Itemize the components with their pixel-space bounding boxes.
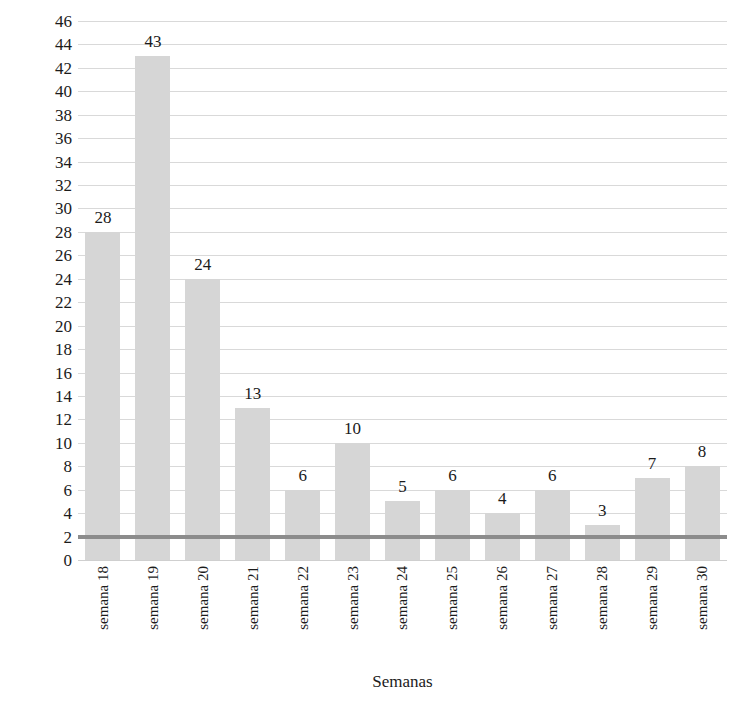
x-axis-tick-label: semana 18: [95, 566, 110, 630]
y-axis-tick-label: 14: [55, 387, 72, 404]
bar-slot: 6: [527, 21, 577, 560]
x-axis-tick-label: semana 23: [345, 566, 360, 630]
bar[interactable]: 28: [85, 232, 120, 560]
y-axis-tick-label: 6: [64, 481, 73, 498]
bar[interactable]: 6: [285, 490, 320, 560]
x-tick-slot: semana 24: [378, 566, 428, 662]
bar-slot: 6: [278, 21, 328, 560]
x-axis-tick-labels: semana 18semana 19semana 20semana 21sema…: [78, 566, 727, 662]
y-axis-tick-label: 4: [64, 505, 73, 522]
y-axis-tick-label: 16: [55, 364, 72, 381]
x-axis-tick-label: semana 27: [545, 566, 560, 630]
y-axis-tick-label: 26: [55, 247, 72, 264]
bar[interactable]: 5: [385, 501, 420, 560]
y-axis-tick-label: 40: [55, 83, 72, 100]
bar-slot: 5: [378, 21, 428, 560]
reference-line: [78, 535, 727, 539]
y-axis-title: média de dias: [0, 0, 34, 703]
bar-slot: 13: [228, 21, 278, 560]
bar-slot: 24: [178, 21, 228, 560]
bar[interactable]: 6: [435, 490, 470, 560]
x-axis-tick-label: semana 25: [445, 566, 460, 630]
bar[interactable]: 7: [635, 478, 670, 560]
x-tick-slot: semana 22: [278, 566, 328, 662]
bar-value-label: 6: [448, 467, 457, 484]
bar-slot: 10: [328, 21, 378, 560]
bar[interactable]: 24: [185, 279, 220, 560]
bar-value-label: 5: [398, 478, 407, 495]
bar-value-label: 3: [598, 502, 607, 519]
y-axis-tick-label: 46: [55, 13, 72, 30]
bar-value-label: 43: [144, 33, 161, 50]
bar[interactable]: 3: [585, 525, 620, 560]
x-tick-slot: semana 26: [477, 566, 527, 662]
bar[interactable]: 6: [535, 490, 570, 560]
x-axis-tick-label: semana 20: [195, 566, 210, 630]
bar-value-label: 28: [94, 209, 111, 226]
y-axis-tick-label: 8: [64, 458, 73, 475]
bar-chart: média de dias 46444240383634323028262422…: [0, 0, 755, 703]
y-axis-tick-label: 30: [55, 200, 72, 217]
bar-slot: 7: [627, 21, 677, 560]
y-axis-tick-label: 10: [55, 434, 72, 451]
bar-slot: 6: [427, 21, 477, 560]
bar-slot: 3: [577, 21, 627, 560]
x-tick-slot: semana 19: [128, 566, 178, 662]
x-axis-tick-label: semana 21: [245, 566, 260, 630]
x-axis-tick-label: semana 26: [495, 566, 510, 630]
y-axis-tick-label: 32: [55, 177, 72, 194]
y-axis-tick-labels: 4644424038363432302826242220181614121086…: [30, 21, 72, 560]
x-axis-tick-label: semana 30: [695, 566, 710, 630]
x-tick-slot: semana 20: [178, 566, 228, 662]
bar-slot: 43: [128, 21, 178, 560]
bar[interactable]: 43: [135, 56, 170, 560]
bar-series: 284324136105646378: [78, 21, 727, 560]
y-axis-tick-label: 34: [55, 153, 72, 170]
bar-value-label: 7: [648, 455, 657, 472]
y-axis-tick-label: 18: [55, 341, 72, 358]
y-axis-tick-label: 20: [55, 317, 72, 334]
x-axis-tick-label: semana 19: [145, 566, 160, 630]
x-axis-title: Semanas: [78, 672, 727, 692]
axis-baseline: [78, 560, 727, 561]
bar-value-label: 6: [548, 467, 557, 484]
bar[interactable]: 8: [685, 466, 720, 560]
x-axis-tick-label: semana 24: [395, 566, 410, 630]
x-tick-slot: semana 25: [427, 566, 477, 662]
y-axis-tick-label: 38: [55, 106, 72, 123]
y-axis-tick-label: 42: [55, 59, 72, 76]
bar-slot: 28: [78, 21, 128, 560]
bar-value-label: 10: [344, 420, 361, 437]
x-tick-slot: semana 21: [228, 566, 278, 662]
bar[interactable]: 10: [335, 443, 370, 560]
x-tick-slot: semana 27: [527, 566, 577, 662]
bar-value-label: 4: [498, 490, 507, 507]
y-axis-tick-label: 12: [55, 411, 72, 428]
bar-value-label: 24: [194, 256, 211, 273]
y-axis-tick-label: 0: [64, 552, 73, 569]
x-tick-slot: semana 28: [577, 566, 627, 662]
x-tick-slot: semana 23: [328, 566, 378, 662]
y-axis-tick-label: 44: [55, 36, 72, 53]
y-axis-tick-label: 22: [55, 294, 72, 311]
y-axis-tick-label: 36: [55, 130, 72, 147]
x-tick-slot: semana 30: [677, 566, 727, 662]
bar-value-label: 13: [244, 385, 261, 402]
bar-slot: 8: [677, 21, 727, 560]
x-axis-tick-label: semana 22: [295, 566, 310, 630]
y-axis-tick-label: 24: [55, 270, 72, 287]
x-axis-tick-label: semana 28: [595, 566, 610, 630]
bar-slot: 4: [477, 21, 527, 560]
bar-value-label: 8: [698, 443, 707, 460]
x-axis-tick-label: semana 29: [645, 566, 660, 630]
y-axis-tick-label: 2: [64, 528, 73, 545]
x-tick-slot: semana 18: [78, 566, 128, 662]
y-axis-tick-label: 28: [55, 223, 72, 240]
x-tick-slot: semana 29: [627, 566, 677, 662]
bar-value-label: 6: [298, 467, 307, 484]
